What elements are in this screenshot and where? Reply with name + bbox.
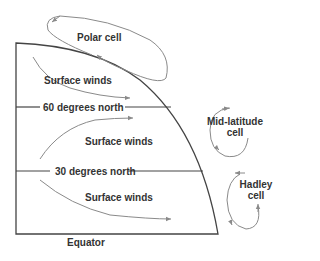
lat-60-label: 60 degrees north [42, 102, 125, 113]
surface-winds-tropical-label: Surface winds [85, 192, 153, 203]
polar-cell-label: Polar cell [77, 32, 121, 43]
equator-label: Equator [67, 237, 105, 248]
surface-winds-mid-label: Surface winds [85, 136, 153, 147]
mid-latitude-cell-label-line2: cell [205, 127, 265, 138]
mid-latitude-cell-label-line1: Mid-latitude [205, 116, 265, 127]
hadley-cell-label: Hadley cell [236, 179, 276, 201]
hadley-cell-label-line2: cell [236, 190, 276, 201]
hadley-cell-arrow-end-bottom [230, 220, 232, 225]
mid-latitude-cell-label: Mid-latitude cell [205, 116, 265, 138]
mid-latitude-cell-arrow-end-top [222, 108, 229, 109]
surface-winds-polar-label: Surface winds [44, 75, 112, 86]
lat-30-label: 30 degrees north [55, 166, 136, 177]
hadley-cell-label-line1: Hadley [236, 179, 276, 190]
